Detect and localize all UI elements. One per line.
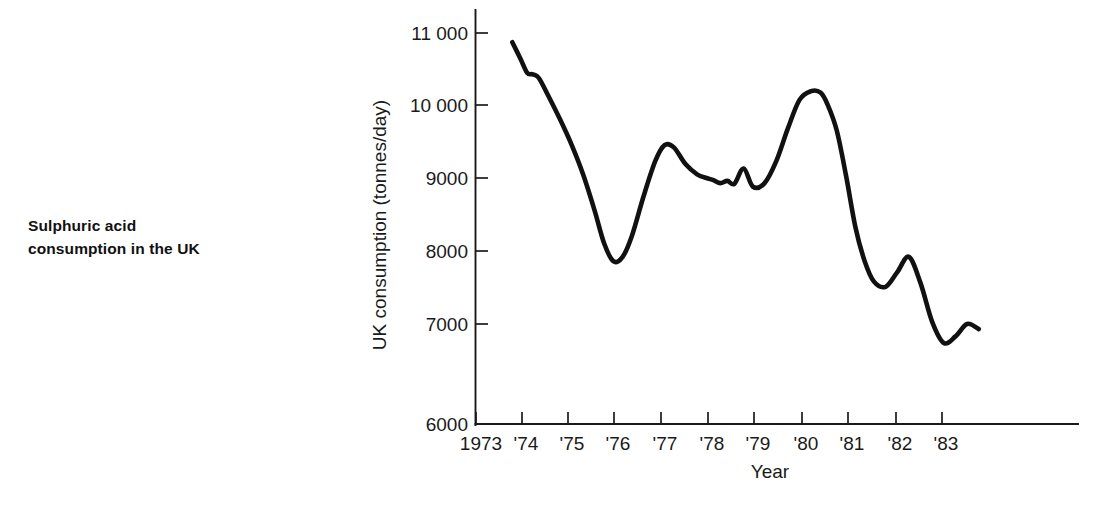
x-tick-label-1981: '81 bbox=[840, 433, 865, 454]
x-tick-label-1978: '78 bbox=[700, 433, 725, 454]
figure-caption: Sulphuric acid consumption in the UK bbox=[28, 214, 328, 261]
x-tick-label-1975: '75 bbox=[560, 433, 585, 454]
x-tick-group bbox=[476, 412, 942, 424]
chart-svg: 11 000 10 000 9000 8000 7000 6000 1 bbox=[360, 0, 1110, 509]
y-tick-label-8000: 8000 bbox=[426, 241, 468, 262]
x-tick-label-1974: '74 bbox=[514, 433, 539, 454]
caption-line-2: consumption in the UK bbox=[28, 237, 328, 260]
y-tick-label-9000: 9000 bbox=[426, 168, 468, 189]
x-tick-label-1983: '83 bbox=[934, 433, 959, 454]
x-tick-label-1982: '82 bbox=[888, 433, 913, 454]
y-tick-label-10000: 10 000 bbox=[410, 95, 468, 116]
x-tick-label-1977: '77 bbox=[653, 433, 678, 454]
line-chart: 11 000 10 000 9000 8000 7000 6000 1 bbox=[360, 0, 1110, 509]
figure-root: Sulphuric acid consumption in the UK 11 … bbox=[0, 0, 1110, 509]
x-tick-label-1980: '80 bbox=[794, 433, 819, 454]
caption-line-1: Sulphuric acid bbox=[28, 214, 328, 237]
y-axis-title: UK consumption (tonnes/day) bbox=[369, 100, 390, 350]
y-tick-label-7000: 7000 bbox=[426, 314, 468, 335]
x-tick-label-1976: '76 bbox=[606, 433, 631, 454]
data-series-line bbox=[512, 42, 978, 343]
x-tick-label-1979: '79 bbox=[746, 433, 771, 454]
x-tick-label-1973: 1973 bbox=[460, 433, 502, 454]
y-tick-group bbox=[475, 33, 488, 324]
x-axis-title: Year bbox=[751, 461, 790, 482]
y-tick-label-11000: 11 000 bbox=[411, 23, 468, 44]
y-tick-label-6000: 6000 bbox=[426, 414, 468, 435]
